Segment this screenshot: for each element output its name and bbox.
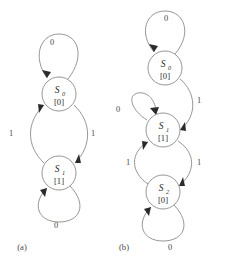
state-output-a-s0: [0] bbox=[54, 97, 64, 107]
state-node-b-s2[interactable]: S 2 [0] bbox=[146, 175, 180, 209]
state-node-a-s1[interactable]: S 1 [1] bbox=[42, 156, 76, 190]
state-subscript-b-s2: 2 bbox=[166, 188, 169, 195]
state-name-a-s1: S bbox=[55, 164, 60, 174]
edge-label-b-s2-to-s1: 1 bbox=[126, 158, 130, 167]
state-diagram-svg: 0 1 1 0 S 0 [0] S 1 bbox=[0, 0, 226, 264]
edge-label-b-s0-to-s1: 1 bbox=[197, 96, 201, 105]
edge-label-a-s0-self: 0 bbox=[50, 38, 54, 47]
edge-label-b-s1-self: 0 bbox=[116, 105, 120, 114]
state-output-b-s0: [0] bbox=[160, 71, 170, 81]
edge-b-s1-to-s2 bbox=[178, 141, 192, 186]
panel-b: 0 1 0 1 1 0 S 0 bbox=[116, 11, 201, 252]
arrowhead-a-s1-to-s0 bbox=[38, 104, 44, 113]
state-name-b-s0: S bbox=[161, 59, 166, 69]
arrowhead-a-s0-to-s1 bbox=[75, 154, 81, 163]
edge-b-s0-to-s1 bbox=[180, 79, 193, 130]
state-output-b-s2: [0] bbox=[158, 195, 168, 205]
state-output-a-s1: [1] bbox=[54, 176, 64, 186]
arrowhead-a-s0-self bbox=[42, 70, 51, 78]
edge-label-a-s1-to-s0: 1 bbox=[9, 129, 13, 138]
state-node-a-s0[interactable]: S 0 [0] bbox=[42, 77, 76, 111]
panel-caption-b: (b) bbox=[119, 242, 129, 252]
edge-label-a-s0-to-s1: 1 bbox=[91, 129, 95, 138]
state-name-a-s0: S bbox=[55, 85, 60, 95]
edge-a-s1-to-s0 bbox=[31, 105, 45, 163]
arrowhead-b-s2-to-s1 bbox=[142, 141, 148, 150]
arrowhead-b-s0-to-s1 bbox=[180, 122, 186, 131]
edge-b-s1-self bbox=[132, 93, 156, 120]
arrowhead-b-s0-self bbox=[149, 44, 158, 52]
state-output-b-s1: [1] bbox=[158, 133, 168, 143]
edge-label-a-s1-self: 0 bbox=[54, 221, 58, 230]
edge-b-s2-to-s1 bbox=[135, 142, 149, 184]
state-diagram-figure: 0 1 1 0 S 0 [0] S 1 bbox=[0, 0, 226, 264]
panel-a: 0 1 1 0 S 0 [0] S 1 bbox=[9, 34, 95, 252]
panel-caption-a: (a) bbox=[17, 242, 27, 252]
state-node-b-s1[interactable]: S 1 [1] bbox=[146, 113, 180, 147]
edge-label-b-s1-to-s2: 1 bbox=[197, 158, 201, 167]
state-name-b-s1: S bbox=[159, 121, 164, 131]
edge-label-b-s0-self: 0 bbox=[164, 14, 168, 23]
edge-a-s0-to-s1 bbox=[74, 105, 88, 163]
edge-label-b-s2-self: 0 bbox=[168, 243, 172, 252]
state-node-b-s0[interactable]: S 0 [0] bbox=[148, 51, 182, 85]
state-subscript-b-s1: 1 bbox=[166, 126, 169, 133]
state-name-b-s2: S bbox=[159, 183, 164, 193]
state-subscript-a-s1: 1 bbox=[62, 169, 65, 176]
